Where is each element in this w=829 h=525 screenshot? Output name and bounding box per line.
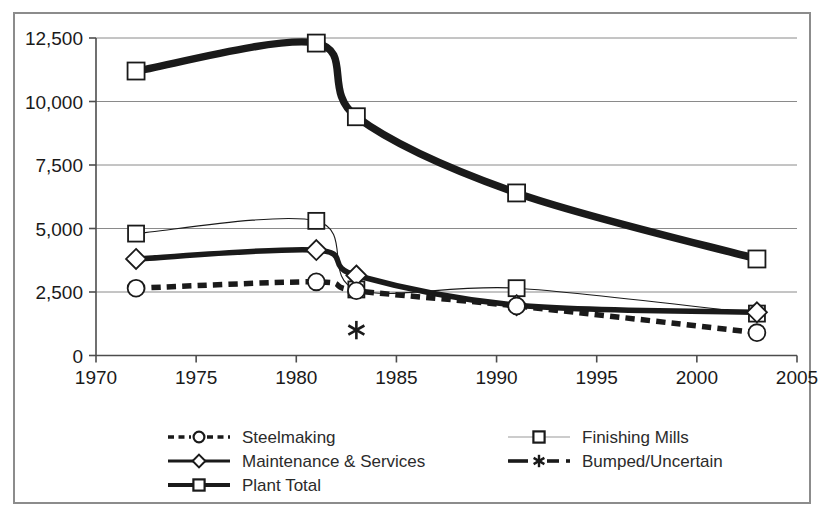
line-chart: 02,5005,0007,50010,00012,500 19701975198… <box>0 0 829 525</box>
data-point-marker <box>748 250 765 267</box>
data-point-marker <box>128 280 145 297</box>
x-tick-label: 1970 <box>75 367 117 388</box>
gridlines <box>96 38 797 356</box>
chart-figure: 02,5005,0007,50010,00012,500 19701975198… <box>0 0 829 525</box>
y-tick-label: 5,000 <box>35 219 83 240</box>
legend-marker-diamond <box>193 455 206 468</box>
data-point-marker <box>126 249 146 269</box>
legend-label: Bumped/Uncertain <box>582 452 723 471</box>
data-point-marker <box>348 321 364 339</box>
legend-item-maintenance-services[interactable]: Maintenance & Services <box>168 452 425 471</box>
data-point-marker <box>306 240 326 260</box>
data-point-marker <box>348 282 365 299</box>
data-point-marker <box>508 184 525 201</box>
legend-label: Maintenance & Services <box>242 452 425 471</box>
data-point-marker <box>509 280 525 296</box>
y-tick-label: 0 <box>72 346 83 367</box>
data-point-marker <box>508 298 525 315</box>
legend-label: Plant Total <box>242 476 321 495</box>
legend-marker-square <box>533 431 544 442</box>
data-point-marker <box>128 226 144 242</box>
series-steelmaking <box>128 273 766 341</box>
legend-marker-circle <box>194 432 205 443</box>
series-plant-total <box>128 35 766 268</box>
series-maintenance-services <box>126 240 767 322</box>
legend-label: Finishing Mills <box>582 428 689 447</box>
legend-marker-square <box>193 479 204 490</box>
legend-item-steelmaking[interactable]: Steelmaking <box>168 428 336 447</box>
x-tick-label: 1985 <box>375 367 417 388</box>
legend-item-bumped-uncertain[interactable]: Bumped/Uncertain <box>508 452 723 471</box>
x-axis-ticks <box>96 356 797 363</box>
x-tick-label: 1980 <box>275 367 317 388</box>
x-tick-label: 2000 <box>676 367 718 388</box>
data-point-marker <box>308 35 325 52</box>
data-point-marker <box>348 108 365 125</box>
legend-item-finishing-mills[interactable]: Finishing Mills <box>508 428 689 447</box>
legend: SteelmakingFinishing MillsMaintenance & … <box>168 428 723 495</box>
x-tick-label: 1975 <box>175 367 217 388</box>
data-point-marker <box>749 324 766 341</box>
data-point-marker <box>308 273 325 290</box>
y-axis-tick-labels: 02,5005,0007,50010,00012,500 <box>25 28 83 367</box>
y-tick-label: 7,500 <box>35 155 83 176</box>
legend-item-plant-total[interactable]: Plant Total <box>168 476 321 495</box>
y-tick-label: 12,500 <box>25 28 83 49</box>
series-line <box>136 42 757 259</box>
data-series-group <box>126 35 767 341</box>
data-point-marker <box>308 213 324 229</box>
data-point-marker <box>128 63 145 80</box>
x-tick-label: 1995 <box>576 367 618 388</box>
series-bumped-uncertain <box>348 321 364 339</box>
legend-marker-asterisk <box>534 455 545 467</box>
series-finishing-mills <box>128 213 765 322</box>
legend-label: Steelmaking <box>242 428 336 447</box>
y-tick-label: 10,000 <box>25 92 83 113</box>
x-axis-tick-labels: 19701975198019851990199520002005 <box>75 367 818 388</box>
y-tick-label: 2,500 <box>35 282 83 303</box>
y-axis-ticks <box>89 38 96 356</box>
x-tick-label: 1990 <box>475 367 517 388</box>
x-tick-label: 2005 <box>776 367 818 388</box>
